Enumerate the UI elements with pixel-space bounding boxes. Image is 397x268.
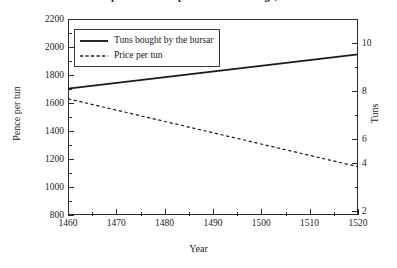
series-line-price-per-tun	[68, 99, 358, 167]
legend-item-price-per-tun: Price per tun	[79, 48, 213, 63]
chart-legend: Tuns bought by the bursar Price per tun	[74, 29, 220, 67]
legend-label-price-per-tun: Price per tun	[114, 51, 163, 61]
legend-key-solid-line-icon	[79, 36, 109, 46]
legend-item-tuns-bought: Tuns bought by the bursar	[79, 33, 213, 48]
legend-label-tuns-bought: Tuns bought by the bursar	[114, 36, 213, 46]
legend-key-dashed-line-icon	[79, 51, 109, 61]
chart-figure: Wine purchases and prices at New College…	[0, 0, 397, 268]
